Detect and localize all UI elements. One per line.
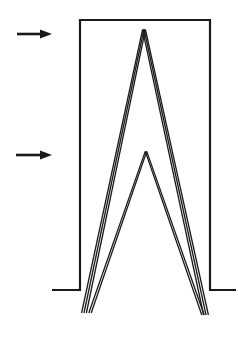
peaks-group <box>82 29 209 315</box>
lower-arrow-icon <box>16 151 52 160</box>
upper-arrow-icon <box>17 30 52 39</box>
diagram-canvas <box>0 0 238 337</box>
short-peak <box>89 151 204 315</box>
arrows-group <box>16 30 52 160</box>
